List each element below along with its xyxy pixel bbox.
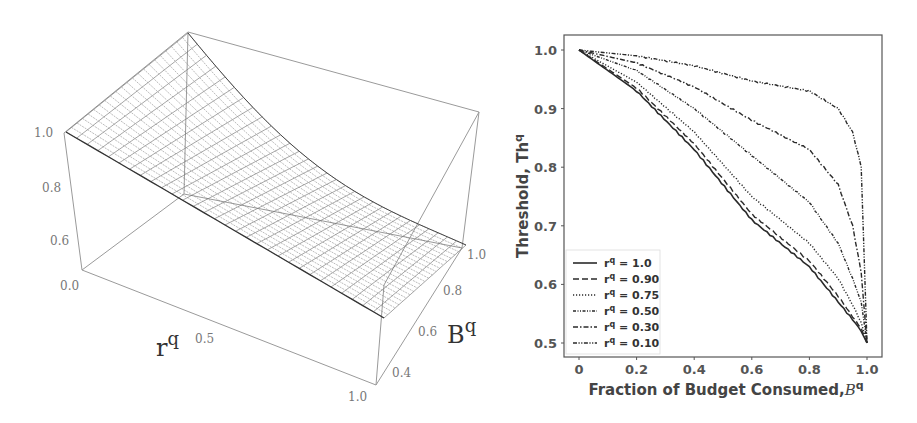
x-axis-label: Fraction of Budget Consumed,Bq — [588, 379, 863, 399]
z-tick-1.0: 1.0 — [34, 126, 53, 140]
threshold-line-chart: 0.50.60.70.80.91.0 00.20.40.60.81.0 Thre… — [500, 0, 917, 423]
x-tick-0.5: 0.5 — [195, 332, 214, 346]
x-tick-label: 0.8 — [798, 362, 821, 377]
y-tick-label: 0.6 — [534, 277, 557, 292]
surface-mesh — [66, 33, 466, 318]
y-tick-label: 0.7 — [534, 219, 557, 234]
z-tick-0.8: 0.8 — [42, 181, 61, 195]
x-tick-label: 0.4 — [683, 362, 706, 377]
x-tick-label: 0.2 — [625, 362, 648, 377]
y-tick-0.6: 0.6 — [418, 325, 437, 339]
x-tick-0.0: 0.0 — [60, 279, 79, 293]
surface-tick-labels: 1.0 0.8 0.6 0.0 0.5 1.0 0.4 0.6 0.8 1.0 — [34, 126, 486, 404]
line-chart-panel: 0.50.60.70.80.91.0 00.20.40.60.81.0 Thre… — [500, 0, 917, 423]
y-tick-label: 0.8 — [534, 160, 557, 175]
y-tick-0.8: 0.8 — [443, 284, 462, 298]
x-tick-label: 0.6 — [740, 362, 763, 377]
x-axis-label: rq — [156, 328, 179, 362]
y-tick-label: 0.5 — [534, 336, 557, 351]
y-axis-label: Threshold, Thq — [512, 134, 532, 258]
x-axis-ticks: 00.20.40.60.81.0 — [574, 357, 878, 377]
y-axis-label: Bq — [447, 315, 476, 349]
z-tick-0.6: 0.6 — [50, 234, 69, 248]
x-tick-1.0: 1.0 — [348, 390, 367, 404]
bounding-box — [64, 32, 479, 385]
surface-plot-panel: 1.0 0.8 0.6 0.0 0.5 1.0 0.4 0.6 0.8 1.0 … — [0, 0, 500, 423]
y-tick-label: 1.0 — [534, 43, 557, 58]
legend: rq = 1.0rq = 0.90rq = 0.75rq = 0.50rq = … — [566, 250, 660, 354]
x-tick-label: 1.0 — [855, 362, 878, 377]
y-axis-ticks: 0.50.60.70.80.91.0 — [534, 43, 564, 351]
y-tick-label: 0.9 — [534, 102, 557, 117]
surface-plot: 1.0 0.8 0.6 0.0 0.5 1.0 0.4 0.6 0.8 1.0 … — [0, 0, 500, 423]
y-tick-0.4: 0.4 — [392, 366, 411, 380]
x-tick-label: 0 — [574, 362, 583, 377]
y-tick-1.0: 1.0 — [467, 248, 486, 262]
